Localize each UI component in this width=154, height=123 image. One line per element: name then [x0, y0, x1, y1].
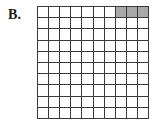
- grid-cell[interactable]: [105, 97, 116, 108]
- grid-cell[interactable]: [105, 7, 116, 18]
- grid-cell[interactable]: [127, 18, 138, 29]
- grid-cell[interactable]: [38, 7, 49, 18]
- grid-cell[interactable]: [116, 18, 127, 29]
- grid-cell[interactable]: [116, 85, 127, 96]
- grid-cell[interactable]: [94, 74, 105, 85]
- grid-cell[interactable]: [49, 7, 60, 18]
- grid-cell[interactable]: [38, 74, 49, 85]
- grid-cell[interactable]: [60, 63, 71, 74]
- grid-cell[interactable]: [127, 52, 138, 63]
- grid-cell[interactable]: [38, 97, 49, 108]
- grid-cell[interactable]: [116, 41, 127, 52]
- grid-cell[interactable]: [49, 63, 60, 74]
- grid-cell[interactable]: [71, 74, 82, 85]
- grid-cell[interactable]: [38, 108, 49, 119]
- grid-cell[interactable]: [127, 29, 138, 40]
- grid-cell[interactable]: [105, 18, 116, 29]
- grid-cell[interactable]: [127, 85, 138, 96]
- grid-cell[interactable]: [138, 52, 149, 63]
- grid-cell[interactable]: [71, 29, 82, 40]
- grid-cell[interactable]: [71, 18, 82, 29]
- grid-cell[interactable]: [60, 97, 71, 108]
- grid-cell[interactable]: [49, 74, 60, 85]
- grid-cell[interactable]: [82, 41, 93, 52]
- grid-cell[interactable]: [82, 7, 93, 18]
- grid-cell[interactable]: [49, 41, 60, 52]
- grid-cell[interactable]: [60, 74, 71, 85]
- grid-cell[interactable]: [82, 29, 93, 40]
- grid-cell[interactable]: [71, 41, 82, 52]
- grid-cell[interactable]: [116, 108, 127, 119]
- grid-cell[interactable]: [127, 108, 138, 119]
- grid-cell[interactable]: [94, 85, 105, 96]
- grid-cell[interactable]: [138, 85, 149, 96]
- grid-cell[interactable]: [49, 108, 60, 119]
- grid-cell[interactable]: [38, 52, 49, 63]
- grid-cell[interactable]: [138, 41, 149, 52]
- grid-cell[interactable]: [38, 85, 49, 96]
- grid-cell[interactable]: [127, 74, 138, 85]
- grid-cell[interactable]: [82, 74, 93, 85]
- grid-cell[interactable]: [60, 29, 71, 40]
- grid-cell[interactable]: [116, 29, 127, 40]
- grid-cell[interactable]: [116, 74, 127, 85]
- grid-cell[interactable]: [105, 85, 116, 96]
- grid-cell[interactable]: [105, 29, 116, 40]
- grid-cell[interactable]: [94, 108, 105, 119]
- grid-cell[interactable]: [94, 41, 105, 52]
- grid-cell[interactable]: [71, 85, 82, 96]
- grid-cell[interactable]: [82, 52, 93, 63]
- grid-cell[interactable]: [71, 97, 82, 108]
- grid-cell-shaded[interactable]: [138, 7, 149, 18]
- grid-cell[interactable]: [38, 29, 49, 40]
- grid-cell[interactable]: [94, 18, 105, 29]
- grid-cell[interactable]: [94, 63, 105, 74]
- grid-cell[interactable]: [138, 74, 149, 85]
- grid-cell[interactable]: [38, 41, 49, 52]
- grid-cell[interactable]: [60, 7, 71, 18]
- grid-cell[interactable]: [82, 18, 93, 29]
- grid-cell[interactable]: [60, 41, 71, 52]
- grid-cell[interactable]: [71, 63, 82, 74]
- grid-cell[interactable]: [49, 97, 60, 108]
- grid-cell[interactable]: [138, 63, 149, 74]
- grid-cell[interactable]: [94, 52, 105, 63]
- grid-cell[interactable]: [82, 85, 93, 96]
- grid-cell-shaded[interactable]: [127, 7, 138, 18]
- grid-cell[interactable]: [127, 63, 138, 74]
- grid-cell[interactable]: [127, 41, 138, 52]
- grid-cell[interactable]: [49, 29, 60, 40]
- grid-cell[interactable]: [105, 63, 116, 74]
- grid-cell[interactable]: [116, 52, 127, 63]
- grid-cell[interactable]: [105, 108, 116, 119]
- grid-cell[interactable]: [138, 29, 149, 40]
- grid-cell[interactable]: [94, 7, 105, 18]
- grid-cell[interactable]: [94, 29, 105, 40]
- grid-cell[interactable]: [94, 97, 105, 108]
- grid-cell[interactable]: [60, 52, 71, 63]
- grid-cell[interactable]: [49, 85, 60, 96]
- grid-cell[interactable]: [71, 7, 82, 18]
- grid-cell[interactable]: [82, 97, 93, 108]
- grid-cell[interactable]: [105, 74, 116, 85]
- grid-cell[interactable]: [116, 97, 127, 108]
- grid-cell[interactable]: [82, 63, 93, 74]
- grid-cell[interactable]: [49, 18, 60, 29]
- grid-cell[interactable]: [116, 63, 127, 74]
- grid-cell[interactable]: [105, 52, 116, 63]
- grid-cell[interactable]: [105, 41, 116, 52]
- grid-cell[interactable]: [138, 108, 149, 119]
- grid-cell-shaded[interactable]: [116, 7, 127, 18]
- grid-cell[interactable]: [127, 97, 138, 108]
- grid-cell[interactable]: [60, 18, 71, 29]
- grid-cell[interactable]: [60, 108, 71, 119]
- grid-cell[interactable]: [82, 108, 93, 119]
- grid-cell[interactable]: [71, 52, 82, 63]
- grid-cell[interactable]: [138, 97, 149, 108]
- grid-cell[interactable]: [60, 85, 71, 96]
- grid-cell[interactable]: [38, 63, 49, 74]
- grid-cell[interactable]: [49, 52, 60, 63]
- grid-cell[interactable]: [71, 108, 82, 119]
- grid-cell[interactable]: [138, 18, 149, 29]
- grid-cell[interactable]: [38, 18, 49, 29]
